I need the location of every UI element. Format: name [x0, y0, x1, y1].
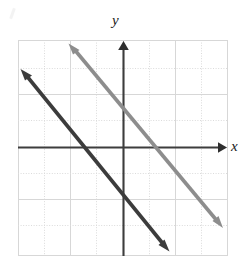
graph-figure: y x — [0, 0, 248, 259]
y-axis-label: y — [112, 13, 119, 28]
x-axis-label: x — [231, 139, 238, 154]
coordinate-plane — [0, 0, 248, 259]
